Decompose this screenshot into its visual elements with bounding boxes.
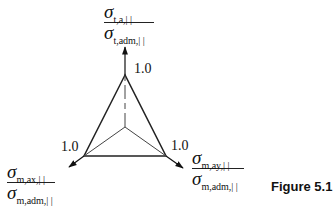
sigma-symbol: σ <box>7 161 16 182</box>
subscript: t,adm,| | <box>113 35 145 46</box>
tick-value-left: 1.0 <box>61 140 79 154</box>
sigma-symbol: σ <box>192 147 201 168</box>
sigma-symbol: σ <box>104 22 113 43</box>
arrow-left-icon <box>69 156 84 167</box>
sigma-symbol: σ <box>192 168 201 189</box>
axis-label-top: σt,a,| | σt,adm,| | <box>104 2 154 43</box>
tick-value-top: 1.0 <box>134 62 152 76</box>
subscript: m,ax,| | <box>16 174 45 185</box>
axis-label-right: σm,ay,| | σm,adm,| | <box>192 148 244 189</box>
subscript: m,adm,| | <box>16 195 53 206</box>
subscript: m,adm,| | <box>201 181 238 192</box>
subscript: m,ay,| | <box>201 160 229 171</box>
diagram-canvas: σt,a,| | σt,adm,| | 1.0 σm,ax,| | σm,adm… <box>0 0 334 212</box>
tick-value-right: 1.0 <box>171 139 189 153</box>
sigma-symbol: σ <box>104 1 113 22</box>
axis-left-inner <box>84 127 125 156</box>
arrow-right-icon <box>166 156 183 168</box>
axis-right-inner <box>125 127 166 156</box>
sigma-symbol: σ <box>7 182 16 203</box>
subscript: t,a,| | <box>113 14 132 25</box>
axis-label-left: σm,ax,| | σm,adm,| | <box>7 162 55 203</box>
figure-caption: Figure 5.1 <box>271 179 332 194</box>
